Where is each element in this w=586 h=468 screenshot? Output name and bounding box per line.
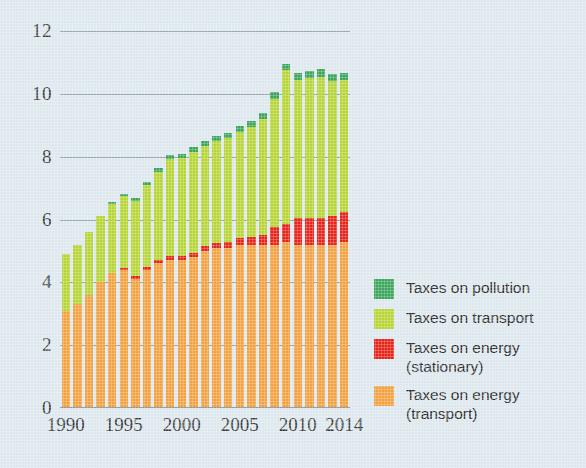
y-axis-tick-label: 12 bbox=[32, 20, 52, 42]
x-axis-tick-label: 1990 bbox=[47, 414, 85, 436]
bar-segment-taxes-on-transport bbox=[317, 77, 325, 218]
bar-segment-taxes-on-energy-stationary bbox=[270, 227, 278, 244]
bar-1999 bbox=[166, 155, 174, 408]
bar-segment-taxes-on-transport bbox=[154, 172, 162, 260]
bar-segment-taxes-on-transport bbox=[224, 138, 232, 242]
bar-segment-taxes-on-transport bbox=[62, 254, 70, 311]
bar-2010 bbox=[294, 73, 302, 408]
bar-segment-taxes-on-energy-transport bbox=[131, 279, 139, 408]
bar-segment-taxes-on-energy-transport bbox=[259, 245, 267, 408]
y-axis-tick-label: 6 bbox=[42, 209, 52, 231]
bar-segment-taxes-on-energy-transport bbox=[236, 245, 244, 408]
bar-segment-taxes-on-transport bbox=[131, 201, 139, 276]
bar-segment-taxes-on-energy-transport bbox=[62, 311, 70, 408]
bar-segment-taxes-on-transport bbox=[305, 78, 313, 218]
bar-2006 bbox=[247, 121, 255, 408]
bar-segment-taxes-on-transport bbox=[85, 232, 93, 295]
legend-label: Taxes on transport bbox=[406, 308, 534, 327]
legend-label-line2: (stationary) bbox=[406, 357, 520, 376]
bar-segment-taxes-on-energy-stationary bbox=[317, 218, 325, 245]
x-axis-tick-label: 1995 bbox=[105, 414, 143, 436]
bar-2014 bbox=[340, 73, 348, 408]
bar-1998 bbox=[154, 168, 162, 408]
legend-item-pollution[interactable]: Taxes on pollution bbox=[374, 278, 580, 299]
legend-label-line2: (transport) bbox=[406, 404, 520, 423]
x-axis-baseline bbox=[60, 407, 350, 409]
bar-segment-taxes-on-energy-stationary bbox=[328, 216, 336, 244]
legend-item-energy_stationary[interactable]: Taxes on energy(stationary) bbox=[374, 338, 580, 376]
legend-swatch-energy_transport bbox=[374, 386, 394, 406]
x-axis-tick-label: 2000 bbox=[163, 414, 201, 436]
legend-item-transport[interactable]: Taxes on transport bbox=[374, 308, 580, 329]
legend-label: Taxes on energy(transport) bbox=[406, 385, 520, 423]
bar-segment-taxes-on-transport bbox=[73, 245, 81, 305]
y-axis-tick-label: 8 bbox=[42, 146, 52, 168]
bar-segment-taxes-on-energy-transport bbox=[294, 245, 302, 408]
bar-2004 bbox=[224, 133, 232, 408]
bar-segment-taxes-on-transport bbox=[96, 216, 104, 282]
bar-segment-taxes-on-energy-transport bbox=[282, 242, 290, 409]
x-axis-tick-label: 2010 bbox=[279, 414, 317, 436]
bar-segment-taxes-on-transport bbox=[108, 204, 116, 273]
bar-segment-taxes-on-pollution bbox=[305, 71, 313, 78]
bar-segment-taxes-on-transport bbox=[120, 196, 128, 268]
legend-swatch-transport bbox=[374, 309, 394, 329]
y-axis-tick-label: 4 bbox=[42, 271, 52, 293]
x-axis-tick-label: 2014 bbox=[325, 414, 363, 436]
bar-segment-taxes-on-energy-stationary bbox=[247, 237, 255, 245]
bar-segment-taxes-on-transport bbox=[212, 141, 220, 243]
bar-segment-taxes-on-energy-transport bbox=[120, 270, 128, 408]
bar-segment-taxes-on-transport bbox=[328, 81, 336, 216]
bar-1991 bbox=[73, 245, 81, 408]
bar-1997 bbox=[143, 182, 151, 408]
y-axis-labels: 024681012 bbox=[0, 31, 52, 408]
bar-segment-taxes-on-transport bbox=[201, 146, 209, 247]
bar-segment-taxes-on-energy-transport bbox=[189, 257, 197, 408]
bar-segment-taxes-on-transport bbox=[247, 127, 255, 237]
bar-segment-taxes-on-energy-transport bbox=[212, 248, 220, 408]
bar-segment-taxes-on-energy-transport bbox=[166, 260, 174, 408]
bar-segment-taxes-on-energy-transport bbox=[317, 245, 325, 408]
stacked-bar-chart: 024681012 199019952000200520102014 Taxes… bbox=[0, 0, 586, 468]
bar-1996 bbox=[131, 198, 139, 408]
bar-2007 bbox=[259, 113, 267, 408]
legend-swatch-energy_stationary bbox=[374, 339, 394, 359]
bar-segment-taxes-on-energy-transport bbox=[73, 304, 81, 408]
bar-segment-taxes-on-transport bbox=[282, 70, 290, 224]
bar-segment-taxes-on-energy-transport bbox=[143, 270, 151, 408]
bar-segment-taxes-on-energy-transport bbox=[340, 242, 348, 409]
bar-segment-taxes-on-transport bbox=[178, 158, 186, 255]
bar-segment-taxes-on-pollution bbox=[328, 74, 336, 81]
bar-1995 bbox=[120, 194, 128, 408]
bar-2008 bbox=[270, 92, 278, 408]
bar-segment-taxes-on-energy-transport bbox=[328, 245, 336, 408]
bar-segment-taxes-on-energy-transport bbox=[305, 245, 313, 408]
bar-1993 bbox=[96, 216, 104, 408]
bar-segment-taxes-on-energy-transport bbox=[270, 245, 278, 408]
bar-1992 bbox=[85, 232, 93, 408]
bar-2013 bbox=[328, 74, 336, 408]
bar-segment-taxes-on-transport bbox=[166, 159, 174, 256]
bar-segment-taxes-on-transport bbox=[340, 80, 348, 212]
bar-segment-taxes-on-transport bbox=[236, 132, 244, 239]
bar-segment-taxes-on-energy-stationary bbox=[305, 218, 313, 245]
legend-label: Taxes on pollution bbox=[406, 278, 530, 297]
bar-segment-taxes-on-pollution bbox=[317, 69, 325, 77]
bar-segment-taxes-on-transport bbox=[294, 80, 302, 218]
y-axis-tick-label: 10 bbox=[32, 83, 52, 105]
legend-item-energy_transport[interactable]: Taxes on energy(transport) bbox=[374, 385, 580, 423]
legend-label: Taxes on energy(stationary) bbox=[406, 338, 520, 376]
x-axis-tick-label: 2005 bbox=[221, 414, 259, 436]
bar-segment-taxes-on-energy-transport bbox=[108, 273, 116, 408]
bar-segment-taxes-on-energy-transport bbox=[247, 245, 255, 408]
bar-1990 bbox=[62, 254, 70, 408]
bar-2005 bbox=[236, 126, 244, 408]
plot-area bbox=[60, 31, 350, 408]
x-axis-labels: 199019952000200520102014 bbox=[60, 414, 350, 454]
bar-segment-taxes-on-energy-stationary bbox=[294, 218, 302, 245]
chart-legend: Taxes on pollutionTaxes on transportTaxe… bbox=[374, 278, 580, 432]
bar-segment-taxes-on-energy-transport bbox=[85, 295, 93, 408]
bar-1994 bbox=[108, 202, 116, 408]
bar-2012 bbox=[317, 69, 325, 408]
bar-segment-taxes-on-energy-stationary bbox=[282, 224, 290, 241]
